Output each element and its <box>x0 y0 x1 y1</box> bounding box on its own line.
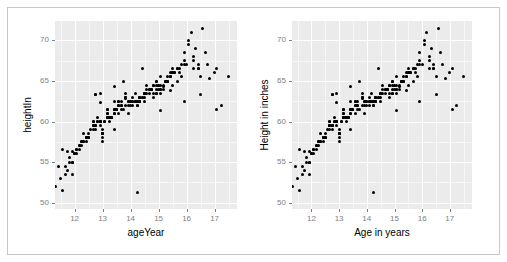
data-point <box>319 132 322 135</box>
y-tick-label: 50 <box>29 199 49 207</box>
gridline-major-horizontal <box>292 122 472 123</box>
gridline-minor-vertical <box>117 21 118 209</box>
data-point <box>159 109 162 112</box>
y-tick-label: 50 <box>266 199 286 207</box>
x-tick-label: 12 <box>70 215 79 223</box>
x-tick-label: 15 <box>154 215 163 223</box>
data-point <box>444 77 447 80</box>
data-point <box>197 63 200 66</box>
data-point <box>435 93 438 96</box>
x-tick-mark <box>75 209 76 212</box>
data-point <box>430 47 433 50</box>
data-point <box>358 80 361 83</box>
data-point <box>412 67 415 70</box>
data-point <box>99 101 102 104</box>
data-point <box>437 27 440 30</box>
data-point <box>377 67 380 70</box>
data-point <box>416 75 419 78</box>
y-tick-mark <box>52 162 55 163</box>
y-axis-title: heightIn <box>23 97 33 133</box>
gridline-minor-vertical <box>325 21 326 209</box>
data-point <box>338 136 341 139</box>
data-point <box>106 116 109 119</box>
data-point <box>155 92 158 95</box>
data-point <box>171 84 174 87</box>
data-point <box>335 124 338 127</box>
data-point <box>187 39 190 42</box>
data-point <box>455 104 458 107</box>
data-point <box>405 89 408 92</box>
data-point <box>324 132 327 135</box>
x-tick-mark <box>395 209 396 212</box>
data-point <box>113 112 116 115</box>
data-point <box>361 92 364 95</box>
data-point <box>301 165 304 168</box>
data-point <box>398 88 401 91</box>
scatter-plot-left: heightIn ageYear 5055606570121314151617 <box>8 0 253 262</box>
data-point <box>141 96 144 99</box>
y-tick-label: 60 <box>29 118 49 126</box>
data-point <box>143 100 146 103</box>
data-point <box>215 67 218 70</box>
y-tick-mark <box>52 203 55 204</box>
y-tick-label: 70 <box>29 36 49 44</box>
x-tick-mark <box>187 209 188 212</box>
data-point <box>322 136 325 139</box>
gridline-major-vertical <box>131 21 132 209</box>
data-point <box>101 128 104 131</box>
data-point <box>124 92 127 95</box>
data-point <box>439 51 442 54</box>
data-point <box>388 96 391 99</box>
data-point <box>308 161 311 164</box>
x-tick-mark <box>367 209 368 212</box>
data-point <box>57 165 60 168</box>
y-tick-label: 70 <box>266 36 286 44</box>
gridline-major-vertical <box>395 21 396 209</box>
data-point <box>94 93 97 96</box>
data-point <box>349 85 352 88</box>
data-point <box>183 51 186 54</box>
y-tick-mark <box>52 40 55 41</box>
x-tick-mark <box>339 209 340 212</box>
data-point <box>301 173 304 176</box>
gridline-minor-horizontal <box>55 61 237 62</box>
data-point <box>393 84 396 87</box>
data-point <box>127 112 130 115</box>
data-point <box>402 80 405 83</box>
gridline-major-horizontal <box>292 81 472 82</box>
data-point <box>315 144 318 147</box>
data-point <box>377 96 380 99</box>
gridline-minor-horizontal <box>55 182 237 183</box>
x-tick-label: 17 <box>445 215 454 223</box>
data-point <box>391 92 394 95</box>
data-point <box>349 100 352 103</box>
data-point <box>101 136 104 139</box>
gridline-major-vertical <box>215 21 216 209</box>
data-point <box>68 156 71 159</box>
data-point <box>155 80 158 83</box>
data-point <box>190 31 193 34</box>
data-point <box>398 84 401 87</box>
data-point <box>220 104 223 107</box>
y-tick-mark <box>289 162 292 163</box>
data-point <box>148 92 151 95</box>
data-point <box>176 80 179 83</box>
gridline-minor-vertical <box>145 21 146 209</box>
data-point <box>180 75 183 78</box>
data-point <box>120 108 123 111</box>
data-point <box>441 63 444 66</box>
data-point <box>178 71 181 74</box>
x-tick-mark <box>311 209 312 212</box>
x-tick-label: 16 <box>418 215 427 223</box>
y-tick-label: 65 <box>266 77 286 85</box>
gridline-minor-vertical <box>408 21 409 209</box>
data-point <box>418 59 421 62</box>
plot-panel <box>55 21 237 209</box>
gridline-major-vertical <box>159 21 160 209</box>
data-point <box>303 169 306 172</box>
x-axis-title: Age in years <box>354 228 410 238</box>
y-tick-mark <box>289 203 292 204</box>
data-point <box>215 108 218 111</box>
data-point <box>395 88 398 91</box>
data-point <box>159 92 162 95</box>
